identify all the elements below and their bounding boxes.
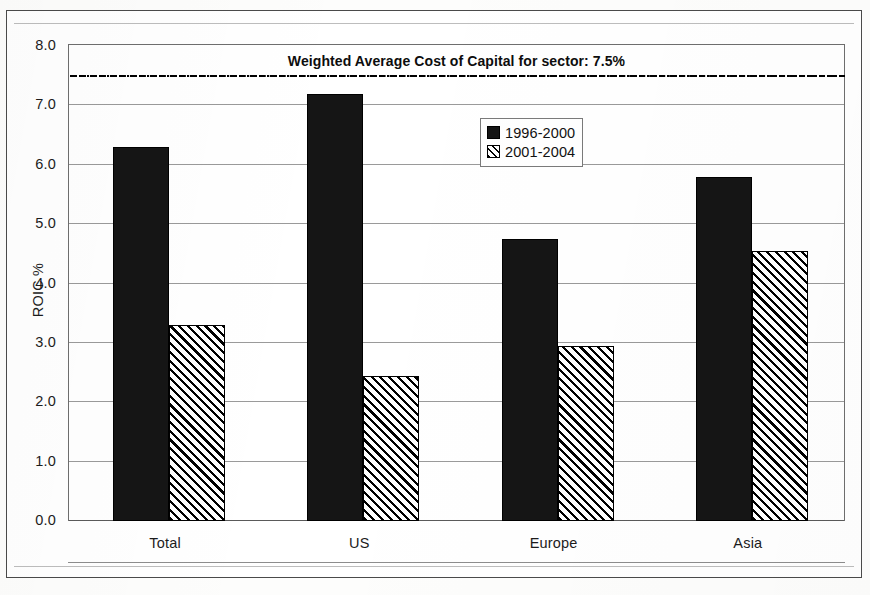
bar-asia-2001-2004	[752, 251, 808, 521]
bar-europe-2001-2004	[558, 346, 614, 521]
bar-total-2001-2004	[169, 325, 225, 521]
x-axis-category-label: US	[349, 535, 370, 551]
y-axis-tick-label: 6.0	[35, 156, 56, 172]
chart-page: 0.01.02.03.04.05.06.07.08.0 ROIC % Weigh…	[0, 0, 870, 595]
legend-item-label: 2001-2004	[505, 144, 575, 160]
legend-swatch-icon	[487, 145, 500, 158]
x-axis-category-label: Asia	[733, 535, 762, 551]
y-axis-tick-label: 0.0	[35, 512, 56, 528]
top-divider-rule	[14, 23, 854, 24]
x-axis-category-label: Europe	[530, 535, 578, 551]
legend-item-label: 1996-2000	[505, 125, 575, 141]
legend-item: 2001-2004	[487, 142, 575, 161]
bar-us-2001-2004	[363, 376, 419, 521]
y-axis-tick-label: 5.0	[35, 215, 56, 231]
y-axis-tick-label: 2.0	[35, 393, 56, 409]
x-axis-categories: TotalUSEuropeAsia	[68, 521, 845, 563]
y-axis-tick-label: 8.0	[35, 37, 56, 53]
bars-layer	[68, 44, 845, 521]
bar-total-1996-2000	[113, 147, 169, 521]
y-axis-title: ROIC %	[30, 230, 46, 350]
y-axis-tick-label: 7.0	[35, 96, 56, 112]
legend-swatch-icon	[487, 126, 500, 139]
x-axis-category-label: Total	[149, 535, 181, 551]
bar-europe-1996-2000	[502, 239, 558, 521]
bar-us-1996-2000	[307, 94, 363, 522]
x-axis-bottom-rule	[68, 562, 845, 563]
legend: 1996-20002001-2004	[480, 118, 583, 167]
bar-asia-1996-2000	[696, 177, 752, 521]
bottom-divider-rule	[14, 566, 854, 567]
y-axis-tick-label: 1.0	[35, 453, 56, 469]
legend-item: 1996-2000	[487, 123, 575, 142]
